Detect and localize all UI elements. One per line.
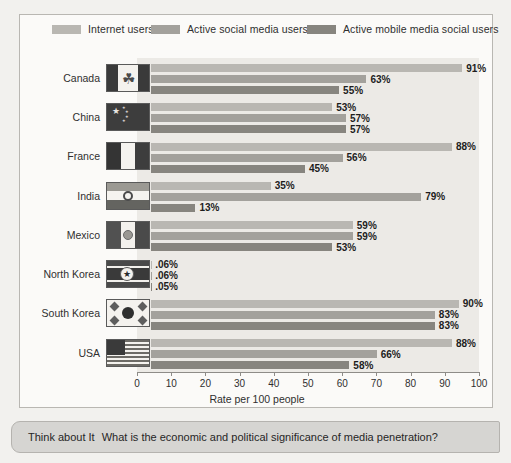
bar-value-label: 58% <box>353 360 373 371</box>
bar-group: 91%63%55% <box>151 58 492 97</box>
bar-1 <box>151 75 366 83</box>
bar-group: .06%.06%.05% <box>151 255 492 294</box>
bar-2 <box>151 165 305 173</box>
bar-2 <box>151 204 195 212</box>
axis-tick <box>205 372 206 376</box>
bar-value-label: 57% <box>350 124 370 135</box>
country-label: South Korea <box>20 307 106 319</box>
bar-row: 91% <box>151 64 486 72</box>
flag-china-icon: ★★★★★ <box>106 103 150 131</box>
bar-value-label: 45% <box>309 163 329 174</box>
bar-value-label: 88% <box>456 141 476 152</box>
chart-row: Mexico59%59%53% <box>20 215 492 254</box>
country-label: China <box>20 111 106 123</box>
country-label: USA <box>20 347 106 359</box>
bar-0 <box>151 64 462 72</box>
bar-1 <box>151 311 435 319</box>
bar-group: 88%66%58% <box>151 333 492 372</box>
axis-tick <box>342 372 343 376</box>
bar-value-label: 59% <box>357 220 377 231</box>
think-about-it-label: Think about It <box>28 431 95 443</box>
chart-row: India35%79%13% <box>20 176 492 215</box>
chart-row: North Korea★.06%.06%.05% <box>20 255 492 294</box>
bar-row: 88% <box>151 339 476 347</box>
bar-group: 90%83%83% <box>151 294 492 333</box>
chart-row: South Korea90%83%83% <box>20 294 492 333</box>
bar-row: 88% <box>151 143 476 151</box>
x-axis-title: Rate per 100 people <box>20 393 494 405</box>
bar-2 <box>151 361 349 369</box>
bar-row: 58% <box>151 361 373 369</box>
bar-value-label: 55% <box>343 85 363 96</box>
bar-1 <box>151 232 353 240</box>
bar-row: 83% <box>151 311 459 319</box>
think-about-it-question: What is the economic and political signi… <box>102 431 438 443</box>
bar-value-label: 59% <box>357 231 377 242</box>
legend-label: Internet users <box>88 23 154 35</box>
bar-0 <box>151 143 452 151</box>
bar-row: 53% <box>151 243 356 251</box>
axis-tick <box>274 372 275 376</box>
axis-tick-label: 20 <box>200 378 211 389</box>
bar-value-label: 56% <box>347 152 367 163</box>
bar-value-label: 91% <box>466 63 486 74</box>
axis-tick <box>411 372 412 376</box>
bar-value-label: .06% <box>155 270 178 281</box>
bar-2 <box>151 86 339 94</box>
chart-row: Canada☘91%63%55% <box>20 58 492 97</box>
axis-tick-label: 50 <box>302 378 313 389</box>
bar-row: 57% <box>151 125 370 133</box>
bar-value-label: 35% <box>275 180 295 191</box>
bar-group: 53%57%57% <box>151 97 492 136</box>
bar-row: 83% <box>151 322 459 330</box>
bar-value-label: .05% <box>155 281 178 292</box>
chart-row: China★★★★★53%57%57% <box>20 97 492 136</box>
media-penetration-chart-panel: Internet usersActive social media usersA… <box>19 14 493 408</box>
axis-tick-label: 10 <box>166 378 177 389</box>
bar-value-label: 57% <box>350 113 370 124</box>
bar-row: .06% <box>151 261 178 269</box>
bar-value-label: 53% <box>336 242 356 253</box>
flag-canada-icon: ☘ <box>106 64 150 92</box>
legend-label: Active mobile media social users <box>343 23 499 35</box>
flag-mexico-icon <box>106 221 150 249</box>
country-label: France <box>20 150 106 162</box>
axis-tick <box>445 372 446 376</box>
bar-0 <box>151 182 271 190</box>
bar-0 <box>151 339 452 347</box>
bar-row: 55% <box>151 86 363 94</box>
bar-1 <box>151 154 343 162</box>
axis-tick <box>308 372 309 376</box>
axis-tick-label: 60 <box>337 378 348 389</box>
flag-france-icon <box>106 142 150 170</box>
bar-row: 45% <box>151 165 329 173</box>
bar-group: 88%56%45% <box>151 137 492 176</box>
axis-tick-label: 30 <box>234 378 245 389</box>
bar-row: 57% <box>151 114 370 122</box>
bar-row: 53% <box>151 103 356 111</box>
axis-tick-label: 90 <box>439 378 450 389</box>
bar-2 <box>151 322 435 330</box>
bar-row: 59% <box>151 232 377 240</box>
chart-row: USA88%66%58% <box>20 333 492 372</box>
bar-1 <box>151 114 346 122</box>
bar-value-label: 88% <box>456 338 476 349</box>
axis-tick-label: 0 <box>134 378 140 389</box>
bar-row: 59% <box>151 221 377 229</box>
bar-group: 59%59%53% <box>151 215 492 254</box>
country-label: India <box>20 190 106 202</box>
legend-item-1: Active social media users <box>151 23 308 35</box>
bar-1 <box>151 193 421 201</box>
bar-value-label: 90% <box>463 298 483 309</box>
x-axis: 0102030405060708090100 <box>137 372 479 373</box>
legend-swatch-icon <box>307 25 336 34</box>
bar-2 <box>151 243 332 251</box>
bar-group: 35%79%13% <box>151 176 492 215</box>
axis-tick-label: 80 <box>405 378 416 389</box>
bar-row: 63% <box>151 75 390 83</box>
country-label: Canada <box>20 72 106 84</box>
think-about-it-box: Think about It What is the economic and … <box>11 421 500 453</box>
chart-rows: Canada☘91%63%55%China★★★★★53%57%57%Franc… <box>20 58 492 372</box>
bar-row: 90% <box>151 300 483 308</box>
bar-row: 35% <box>151 182 295 190</box>
